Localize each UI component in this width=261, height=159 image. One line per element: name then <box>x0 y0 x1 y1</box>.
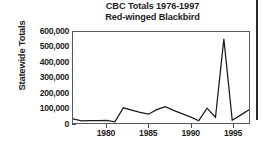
data-line-svg <box>73 32 249 123</box>
chart-title: CBC Totals 1976-1997 <box>60 1 245 12</box>
y-tick-label: 200,000 <box>7 88 69 98</box>
chart-figure: CBC Totals 1976-1997 Red-winged Blackbir… <box>0 0 261 159</box>
y-tick-label: 500,000 <box>7 41 69 51</box>
y-tick-label: 300,000 <box>7 72 69 82</box>
series-red-winged-blackbird <box>73 39 249 122</box>
x-tick-label: 1980 <box>86 128 126 138</box>
y-tick-mark <box>72 124 76 125</box>
x-tick-mark <box>233 124 234 128</box>
chart-subtitle: Red-winged Blackbird <box>60 12 245 23</box>
x-tick-label: 1990 <box>171 128 211 138</box>
x-tick-mark <box>106 124 107 128</box>
x-tick-mark <box>148 124 149 128</box>
x-tick-label: 1995 <box>213 128 253 138</box>
plot-area <box>72 31 250 124</box>
y-tick-label: 100,000 <box>7 103 69 113</box>
chart-title-block: CBC Totals 1976-1997 Red-winged Blackbir… <box>60 1 245 23</box>
y-tick-label: 600,000 <box>7 26 69 36</box>
x-tick-label: 1985 <box>128 128 168 138</box>
y-axis-tick-labels: 0100,000200,000300,000400,000500,000600,… <box>3 31 69 124</box>
y-tick-label: 400,000 <box>7 57 69 67</box>
y-tick-label: 0 <box>7 119 69 129</box>
x-tick-mark <box>191 124 192 128</box>
page-edge-artifact <box>256 0 259 120</box>
